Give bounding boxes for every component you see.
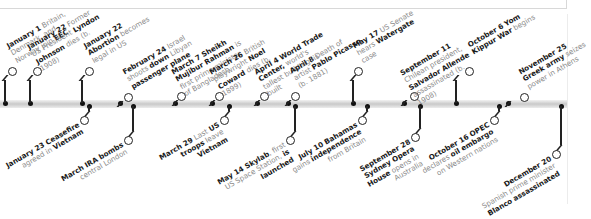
event-circle-icon bbox=[552, 150, 561, 159]
event-label-bottom: May 14 Skylab, first US Space Station, i… bbox=[210, 141, 295, 205]
event-circle-icon bbox=[354, 67, 363, 76]
event-circle-icon bbox=[358, 116, 367, 125]
event-circle-icon bbox=[80, 116, 89, 125]
event-circle-icon bbox=[490, 116, 499, 125]
connector-stem bbox=[81, 80, 83, 103]
event-circle-icon bbox=[411, 133, 420, 142]
event-circle-icon bbox=[124, 136, 133, 145]
connector-stem bbox=[352, 80, 354, 103]
event-circle-icon bbox=[8, 67, 17, 76]
connector-stem bbox=[294, 106, 296, 131]
frame-right-border bbox=[566, 0, 567, 9]
event-circle-icon bbox=[85, 67, 94, 76]
connector-stem bbox=[4, 80, 6, 103]
event-label-bottom: March 29 Last US troops leave Vietnam bbox=[144, 121, 229, 185]
connector-stem bbox=[132, 106, 134, 131]
event-circle-icon bbox=[286, 136, 295, 145]
event-circle-icon bbox=[291, 92, 300, 101]
event-label-bottom: December 20 Spanish prime minister Blanc… bbox=[476, 155, 561, 219]
event-circle-icon bbox=[124, 93, 133, 102]
event-circle-icon bbox=[220, 116, 229, 125]
event-label-bottom: October 16 OPEC declares oil embargo on … bbox=[414, 121, 499, 185]
event-text: IRA bombs central London bbox=[78, 140, 129, 182]
event-label-top: October 6 Yom Kippur War begins bbox=[467, 3, 543, 57]
event-circle-icon bbox=[520, 93, 529, 102]
connector-stem bbox=[455, 80, 457, 103]
connector-stem bbox=[419, 106, 421, 128]
event-text: Bahamas gains independence from Britain bbox=[291, 120, 368, 174]
connector-stem bbox=[560, 106, 562, 145]
connector-stem bbox=[29, 80, 31, 103]
event-text: Ceasefire agreed in Vietnam bbox=[20, 120, 85, 170]
event-label-top: November 25 Greek army seizes power in A… bbox=[517, 30, 591, 91]
event-circle-icon bbox=[465, 67, 474, 76]
event-text: OPEC declares oil embargo on Western nat… bbox=[421, 120, 500, 177]
timeline-bar bbox=[0, 100, 567, 108]
